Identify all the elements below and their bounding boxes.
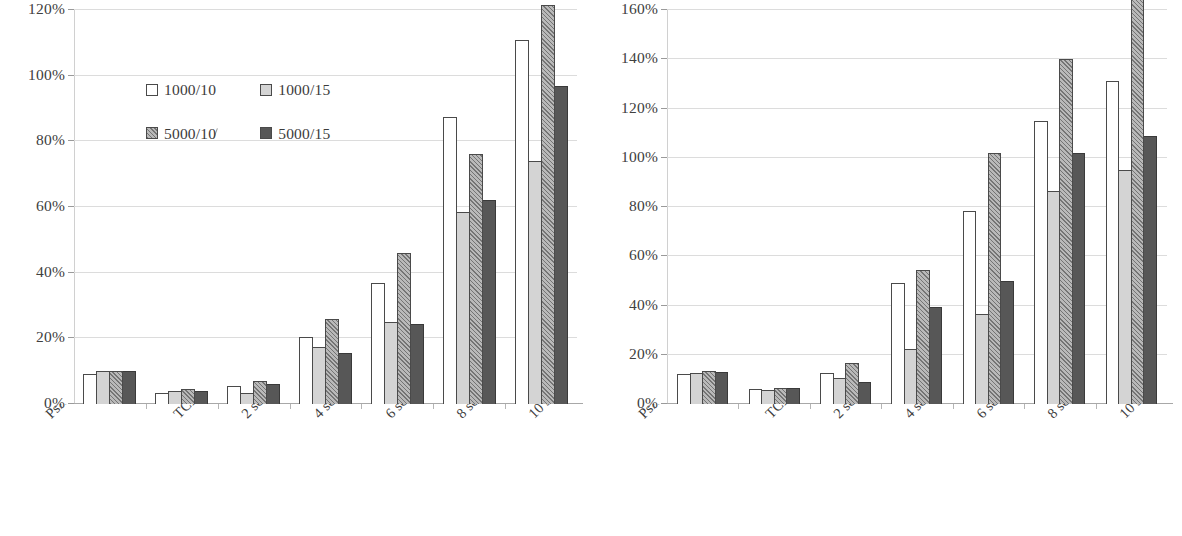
bar[interactable] (338, 353, 352, 404)
bar-group (881, 10, 952, 404)
bar[interactable] (397, 253, 411, 404)
bar[interactable] (1059, 59, 1073, 404)
bar[interactable] (312, 347, 326, 404)
legend-left: 1000/10 1000/15 5000/10 5000/15 (146, 82, 330, 141)
bar[interactable] (266, 384, 280, 404)
bar[interactable] (384, 322, 398, 404)
bar[interactable] (702, 371, 716, 404)
bar[interactable] (988, 153, 1002, 404)
legend-label-5000-10: 5000/10 (164, 126, 216, 142)
legend-swatch-icon-1000-10 (146, 84, 158, 96)
bar[interactable] (845, 363, 859, 404)
bar[interactable] (155, 393, 169, 404)
bar[interactable] (227, 386, 241, 404)
bar-group (810, 10, 881, 404)
bar[interactable] (122, 371, 136, 404)
y-tick-label: 120% (28, 0, 65, 18)
bar[interactable] (456, 212, 470, 404)
bar[interactable] (690, 373, 704, 404)
plot-area-right: 0%20%40%60%80%100%120%140%160% (667, 10, 1167, 404)
bar[interactable] (786, 388, 800, 404)
bar[interactable] (1118, 170, 1132, 404)
bar-group (1024, 10, 1095, 404)
bar[interactable] (904, 349, 918, 404)
bar-group (667, 10, 738, 404)
bar[interactable] (916, 270, 930, 404)
y-tick-label: 20% (629, 345, 658, 363)
bar[interactable] (541, 5, 555, 404)
legend-item-1000-15[interactable]: 1000/15 (260, 82, 330, 98)
bar[interactable] (749, 389, 763, 404)
y-tick-label: 20% (36, 328, 65, 346)
bar[interactable] (1072, 153, 1086, 404)
plot-area-left: 0%20%40%60%80%100%120% (74, 10, 577, 404)
chart-panel-right: 0%20%40%60%80%100%120%140%160% 1000/10 1… (591, 0, 1182, 536)
bar-group (218, 10, 290, 404)
legend-label-1000-10: 1000/10 (164, 82, 216, 98)
bar-group (361, 10, 433, 404)
x-tick-label: PsActiveProcessHead (42, 404, 145, 422)
y-tick-label: 80% (629, 197, 658, 215)
bar[interactable] (410, 324, 424, 404)
y-tick-label: 80% (36, 131, 65, 149)
bar-group (505, 10, 577, 404)
bar[interactable] (1143, 136, 1157, 404)
legend-item-1000-10[interactable]: 1000/10 (146, 82, 216, 98)
bar[interactable] (774, 388, 788, 404)
bar[interactable] (858, 382, 872, 404)
bar[interactable] (1106, 81, 1120, 404)
bar[interactable] (515, 40, 529, 404)
bar[interactable] (469, 154, 483, 404)
bar[interactable] (253, 381, 267, 404)
bar[interactable] (554, 86, 568, 404)
bar-group (738, 10, 809, 404)
bar[interactable] (443, 117, 457, 404)
bar-group (74, 10, 146, 404)
bar[interactable] (1034, 121, 1048, 404)
bar[interactable] (168, 391, 182, 404)
bar[interactable] (963, 211, 977, 404)
chart-panel-left: 0%20%40%60%80%100%120% 1000/10 1000/15 5… (0, 0, 591, 536)
bar[interactable] (325, 319, 339, 404)
bar[interactable] (820, 373, 834, 404)
legend-label-1000-15: 1000/15 (278, 82, 330, 98)
legend-item-5000-15[interactable]: 5000/15 (260, 126, 330, 142)
figure-root: 0%20%40%60%80%100%120% 1000/10 1000/15 5… (0, 0, 1182, 536)
bar-group (290, 10, 362, 404)
legend-item-5000-10[interactable]: 5000/10 (146, 126, 216, 142)
y-tick-label: 100% (621, 148, 658, 166)
bar[interactable] (833, 378, 847, 404)
bar-group (433, 10, 505, 404)
x-tick-label: TCBTable (170, 404, 225, 422)
bar[interactable] (240, 393, 254, 404)
x-tick-label: 10 sets (140 structures) (1116, 404, 1182, 422)
bar[interactable] (181, 389, 195, 404)
bar[interactable] (109, 371, 123, 404)
bar[interactable] (371, 283, 385, 404)
bar[interactable] (677, 374, 691, 404)
bar[interactable] (1131, 0, 1145, 404)
x-tick-label: 10 sets (140 structures) (525, 404, 591, 422)
x-axis-labels-left: PsActiveProcessHeadTCBTable2 sets (28 st… (0, 404, 591, 536)
bar-group (953, 10, 1024, 404)
bar-group (146, 10, 218, 404)
bar[interactable] (194, 391, 208, 404)
bar[interactable] (83, 374, 97, 404)
y-tick-label: 160% (621, 0, 658, 18)
bar[interactable] (482, 200, 496, 404)
bar[interactable] (929, 307, 943, 404)
bar[interactable] (975, 314, 989, 404)
y-tick-label: 40% (36, 263, 65, 281)
bar[interactable] (1047, 191, 1061, 404)
y-tick-label: 60% (36, 197, 65, 215)
x-axis-labels-right: PsActiveProcessHeadTCBTable2 sets (28 st… (591, 404, 1182, 536)
bar[interactable] (715, 372, 729, 404)
legend-label-5000-15: 5000/15 (278, 126, 330, 142)
bar[interactable] (891, 283, 905, 404)
bar[interactable] (1000, 281, 1014, 404)
bar[interactable] (761, 390, 775, 404)
bar[interactable] (299, 337, 313, 404)
bar[interactable] (528, 161, 542, 404)
bar[interactable] (96, 371, 110, 404)
bar-group (1096, 10, 1167, 404)
